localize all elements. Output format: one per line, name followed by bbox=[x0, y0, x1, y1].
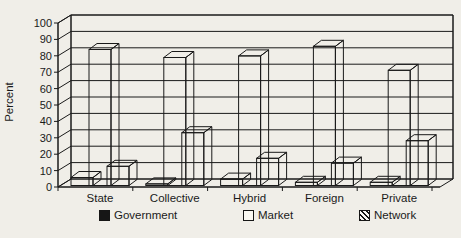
legend-swatch-government-icon bbox=[99, 210, 110, 221]
category-label-foreign: Foreign bbox=[305, 192, 344, 204]
legend-label-network: Network bbox=[374, 209, 416, 221]
bar-market-foreign-top bbox=[313, 40, 343, 46]
y-tick-label-100: 100 bbox=[34, 17, 52, 29]
legend-label-government: Government bbox=[114, 209, 177, 221]
bar-market-hybrid-top bbox=[239, 50, 269, 56]
bar-network-state-side bbox=[129, 160, 137, 185]
y-tick-label-20: 20 bbox=[40, 148, 52, 160]
bar-market-private-side bbox=[410, 64, 418, 185]
legend-label-market: Market bbox=[258, 209, 293, 221]
gridline-wall-30 bbox=[58, 130, 71, 138]
gridline-wall-90 bbox=[58, 31, 71, 39]
gridline-wall-100 bbox=[58, 15, 71, 23]
y-tick-label-30: 30 bbox=[40, 132, 52, 144]
gridline-wall-20 bbox=[58, 146, 71, 154]
bar-market-hybrid-side bbox=[261, 50, 269, 186]
y-axis-title: Percent bbox=[2, 72, 16, 132]
y-tick-label-70: 70 bbox=[40, 66, 52, 78]
bar-market-private-top bbox=[388, 64, 418, 70]
category-label-private: Private bbox=[381, 192, 417, 204]
bar-market-foreign bbox=[313, 46, 335, 185]
y-tick-label-40: 40 bbox=[40, 115, 52, 127]
y-tick-label-80: 80 bbox=[40, 50, 52, 62]
y-tick-label-10: 10 bbox=[40, 165, 52, 177]
legend-swatch-network-icon bbox=[359, 210, 370, 221]
bar-market-state-side bbox=[111, 44, 119, 186]
bar-government-hybrid bbox=[221, 179, 243, 185]
bar-network-collective-side bbox=[204, 127, 212, 186]
gridline-wall-10 bbox=[58, 163, 71, 171]
bar-chart-3d: 0102030405060708090100StateCollectiveHyb… bbox=[0, 0, 461, 238]
bar-network-state bbox=[107, 166, 129, 185]
bar-network-foreign-side bbox=[353, 157, 361, 185]
gridline-wall-50 bbox=[58, 97, 71, 105]
category-label-hybrid: Hybrid bbox=[233, 192, 266, 204]
gridline-wall-40 bbox=[58, 113, 71, 121]
chart-page: 0102030405060708090100StateCollectiveHyb… bbox=[0, 0, 461, 238]
y-tick-label-60: 60 bbox=[40, 83, 52, 95]
chart-canvas: 0102030405060708090100StateCollectiveHyb… bbox=[0, 0, 461, 206]
legend-item-network: Network bbox=[359, 209, 416, 221]
y-tick-label-50: 50 bbox=[40, 99, 52, 111]
bar-market-foreign-side bbox=[335, 40, 343, 185]
bar-market-state bbox=[89, 50, 111, 186]
chart-legend: Government Market Network bbox=[0, 209, 461, 225]
bar-government-state-top bbox=[71, 172, 101, 178]
bar-market-state-top bbox=[89, 44, 119, 50]
y-tick-label-0: 0 bbox=[46, 181, 52, 193]
category-label-state: State bbox=[87, 192, 114, 204]
category-label-collective: Collective bbox=[150, 192, 200, 204]
legend-item-market: Market bbox=[243, 209, 293, 221]
y-tick-label-90: 90 bbox=[40, 33, 52, 45]
bar-market-collective-side bbox=[186, 52, 194, 186]
gridline-wall-60 bbox=[58, 81, 71, 89]
bar-network-collective bbox=[182, 133, 204, 186]
gridline-wall-70 bbox=[58, 64, 71, 72]
gridline-wall-80 bbox=[58, 48, 71, 56]
bar-market-private bbox=[388, 70, 410, 185]
legend-item-government: Government bbox=[99, 209, 177, 221]
legend-swatch-market-icon bbox=[243, 210, 254, 221]
bar-market-collective-top bbox=[164, 52, 194, 58]
bar-network-foreign bbox=[331, 163, 353, 185]
bar-market-collective bbox=[164, 58, 186, 186]
bar-government-hybrid-top bbox=[221, 173, 251, 179]
bar-network-private-side bbox=[428, 135, 436, 186]
bar-market-hybrid bbox=[239, 56, 261, 186]
